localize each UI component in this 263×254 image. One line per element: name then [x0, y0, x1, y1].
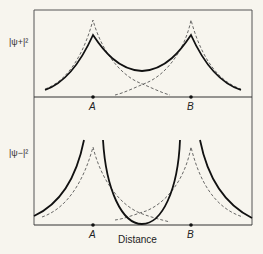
x-axis-label: Distance: [118, 234, 157, 245]
top-solid-curve: [45, 35, 241, 90]
frame: [34, 10, 252, 225]
top-point-a-label: A: [89, 101, 96, 112]
top-dashed-curves: [45, 20, 241, 95]
bottom-solid-curves: [34, 140, 252, 224]
bottom-dashed-curves: [42, 147, 243, 222]
top-ylabel: |ψ+|²: [9, 37, 28, 47]
bottom-point-b-label: B: [187, 229, 194, 240]
top-point-b-label: B: [187, 101, 194, 112]
bottom-point-a-label: A: [89, 229, 96, 240]
bottom-ylabel: |ψ−|²: [9, 148, 28, 158]
orbital-probability-diagram: [0, 0, 263, 254]
